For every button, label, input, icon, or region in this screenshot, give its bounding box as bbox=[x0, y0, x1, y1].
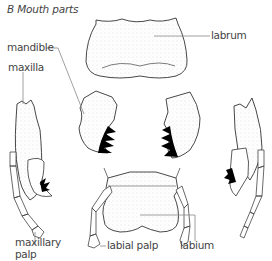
label-labial-palp: labial palp bbox=[107, 239, 158, 251]
label-labrum: labrum bbox=[211, 29, 246, 41]
right-maxilla-shape bbox=[224, 98, 264, 238]
label-maxillary-palp-line2: palp bbox=[15, 248, 36, 260]
left-maxilla-shape bbox=[10, 100, 52, 238]
label-maxillary-palp-line1: maxillary bbox=[15, 236, 61, 248]
label-maxilla: maxilla bbox=[8, 61, 44, 73]
right-mandible-shape bbox=[161, 92, 200, 158]
left-mandible-shape bbox=[79, 91, 117, 153]
label-mandible: mandible bbox=[7, 41, 54, 53]
label-labium: labium bbox=[180, 239, 214, 251]
labrum-shape bbox=[86, 18, 187, 78]
labium-shape bbox=[88, 168, 190, 248]
